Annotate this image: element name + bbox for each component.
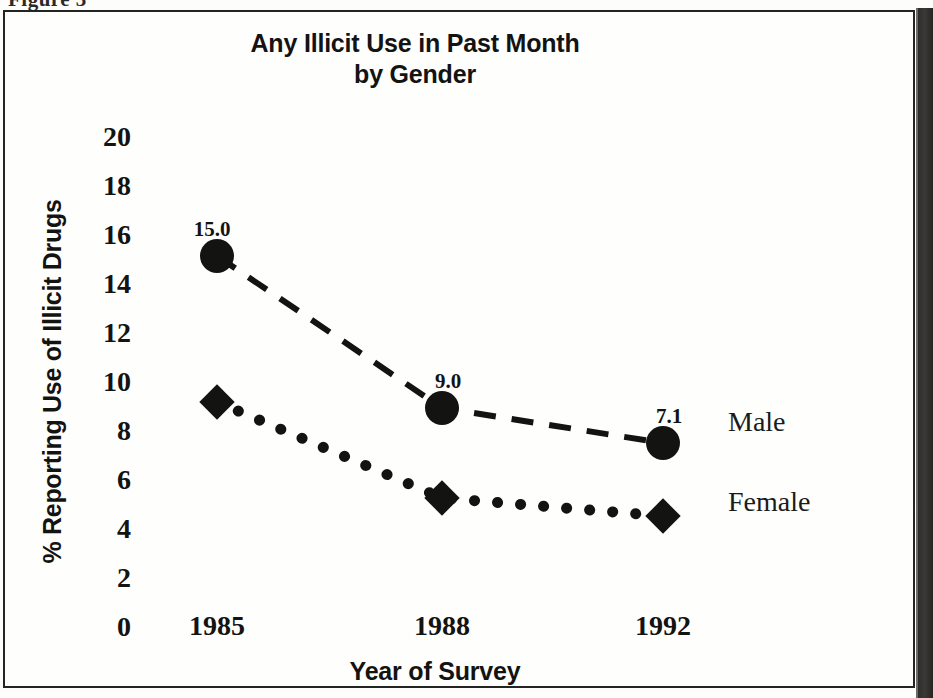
y-tick-label-18: 18	[67, 170, 131, 202]
scanned-figure-page: Figure 3 Any Illicit Use in Past Month b…	[0, 0, 933, 698]
chart-title-line-2: by Gender	[155, 59, 675, 90]
x-tick-label-1992: 1992	[588, 610, 738, 642]
plot-area	[5, 12, 917, 690]
x-axis-title: Year of Survey	[205, 657, 665, 686]
male-marker-1985	[200, 239, 234, 273]
x-tick-label-1988: 1988	[367, 610, 517, 642]
legend-label-male: Male	[728, 406, 786, 438]
male-value-label-1985: 15.0	[167, 217, 257, 242]
page-edge-shadow-band	[918, 8, 933, 698]
male-marker-1992	[646, 426, 680, 460]
series-female	[199, 384, 680, 533]
y-tick-label-8: 8	[67, 415, 131, 447]
legend-label-female: Female	[728, 486, 810, 518]
y-tick-label-6: 6	[67, 464, 131, 496]
y-tick-label-16: 16	[67, 219, 131, 251]
x-tick-label-1985: 1985	[142, 610, 292, 642]
y-tick-label-0: 0	[67, 611, 131, 643]
female-marker-1992	[645, 498, 680, 533]
female-marker-1985	[199, 384, 234, 419]
female-marker-1988	[424, 480, 459, 515]
chart-title: Any Illicit Use in Past Month by Gender	[155, 28, 675, 90]
male-marker-1988	[425, 391, 459, 425]
y-tick-label-2: 2	[67, 562, 131, 594]
female-line-dotted	[217, 402, 663, 516]
y-tick-label-14: 14	[67, 268, 131, 300]
male-value-label-1992: 7.1	[624, 404, 714, 429]
y-tick-label-20: 20	[67, 121, 131, 153]
male-line-dashed	[217, 256, 663, 443]
chart-title-line-1: Any Illicit Use in Past Month	[155, 28, 675, 59]
y-tick-label-12: 12	[67, 317, 131, 349]
y-tick-label-10: 10	[67, 366, 131, 398]
figure-frame-border: Any Illicit Use in Past Month by Gender …	[3, 10, 915, 688]
series-male	[200, 239, 680, 460]
y-axis-title: % Reporting Use of Illicit Drugs	[38, 172, 67, 592]
male-value-label-1988: 9.0	[403, 369, 493, 394]
y-tick-label-4: 4	[67, 513, 131, 545]
